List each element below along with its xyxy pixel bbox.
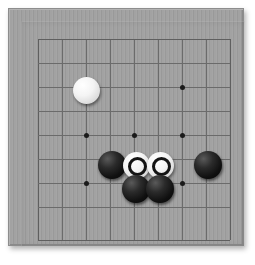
grid-line-horizontal-9 — [38, 39, 230, 40]
go-board[interactable] — [8, 8, 244, 246]
grid-line-vertical-E — [134, 39, 135, 240]
black-stone-f3[interactable] — [146, 175, 174, 203]
star-point-e5 — [132, 133, 137, 138]
grid-line-vertical-H — [206, 39, 207, 240]
star-point-c3 — [84, 181, 89, 186]
star-point-g7 — [180, 85, 185, 90]
grid-line-horizontal-7 — [38, 87, 230, 88]
grid-line-horizontal-6 — [38, 111, 230, 112]
grid-line-horizontal-2 — [38, 207, 230, 208]
grid-line-horizontal-8 — [38, 63, 230, 64]
black-stone-g4[interactable] — [194, 151, 222, 179]
black-stone-d4[interactable] — [98, 151, 126, 179]
grid-line-horizontal-1 — [38, 240, 230, 241]
star-point-c5 — [84, 133, 89, 138]
grid-line-vertical-J — [230, 39, 231, 240]
white-stone-c8[interactable] — [73, 77, 100, 104]
grid-line-vertical-F — [158, 39, 159, 240]
star-point-g5 — [180, 133, 185, 138]
grid-line-vertical-G — [182, 39, 183, 240]
grid-line-vertical-C — [86, 39, 87, 240]
grid-line-vertical-D — [110, 39, 111, 240]
grid-line-vertical-A — [38, 39, 39, 240]
board-grid[interactable] — [38, 39, 230, 240]
grid-line-vertical-B — [62, 39, 63, 240]
star-point-g3 — [180, 181, 185, 186]
go-board-screenshot — [0, 0, 255, 265]
